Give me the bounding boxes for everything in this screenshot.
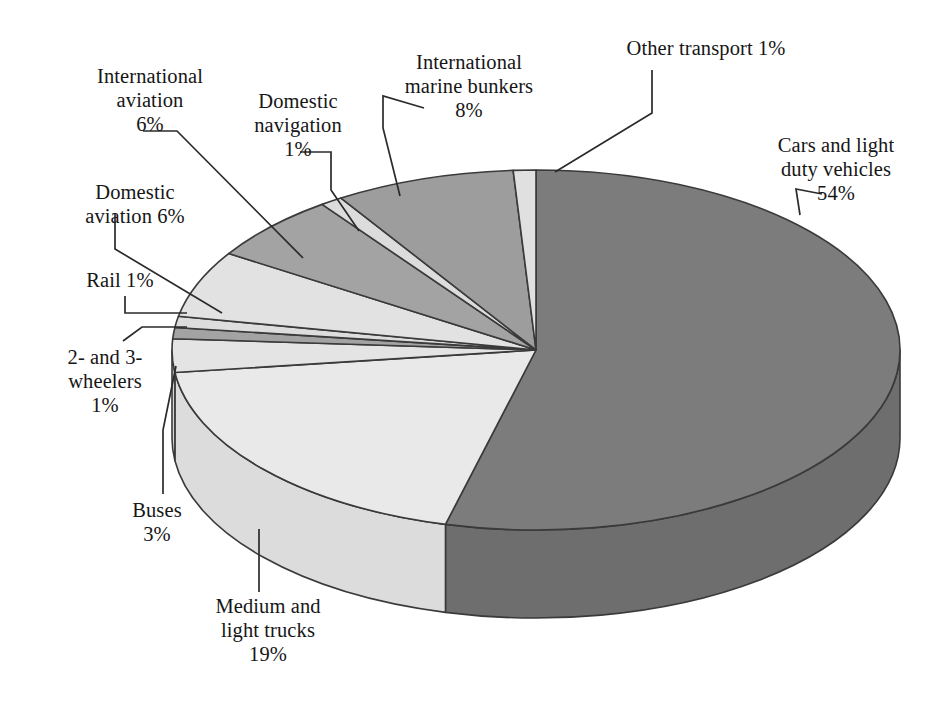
slice-label-buses: Buses 3% [100,498,214,546]
slice-label-domestic-navigation: Domestic navigation 1% [222,89,374,162]
leader-line-other-transport [555,70,652,172]
slice-label-medium-and-light-trucks: Medium and light trucks 19% [175,594,361,667]
leader-line-rail [125,296,187,313]
slice-label-international-aviation: International aviation 6% [60,64,240,137]
slice-label-international-marine-bunkers: International marine bunkers 8% [377,50,561,123]
slice-label-cars-and-light-duty-vehicles: Cars and light duty vehicles 54% [748,133,924,206]
slice-label-two-and-three-wheelers: 2- and 3- wheelers 1% [34,345,176,418]
slice-label-other-transport: Other transport 1% [591,36,821,60]
pie-top-face-group [172,170,900,530]
slice-label-rail: Rail 1% [62,268,178,292]
pie-chart-figure: Other transport 1% International marine … [0,0,942,702]
slice-label-domestic-aviation: Domestic aviation 6% [42,180,228,228]
